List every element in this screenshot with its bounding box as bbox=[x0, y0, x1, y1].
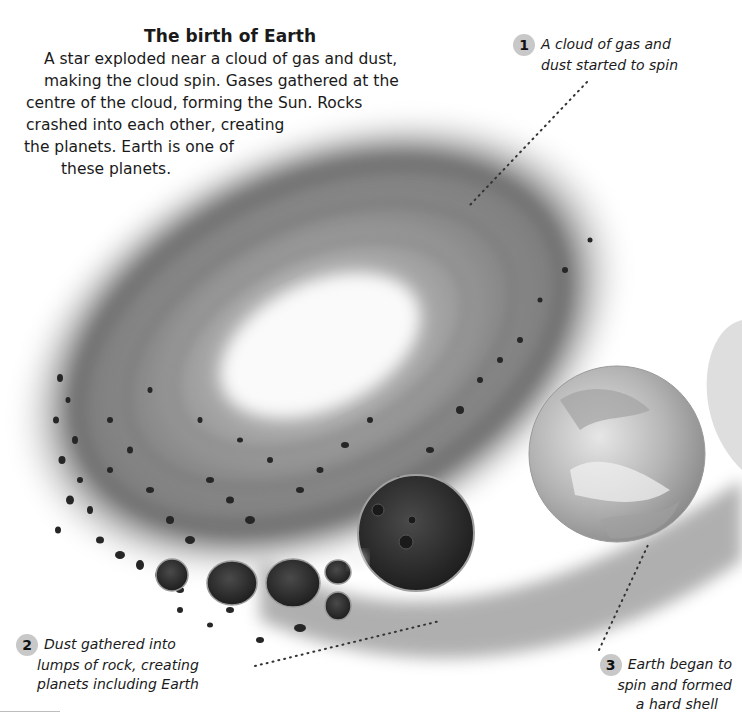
intro-line: these planets. bbox=[61, 158, 171, 180]
callout-2-line: planets including Earth bbox=[16, 675, 199, 694]
intro-line: centre of the cloud, forming the Sun. Ro… bbox=[26, 92, 362, 114]
callout-3-line: Earth began to bbox=[628, 656, 732, 672]
callout-1: 1A cloud of gas and dust started to spin bbox=[513, 34, 678, 75]
step-badge-2: 2 bbox=[16, 634, 38, 656]
callout-1-line: dust started to spin bbox=[513, 56, 678, 75]
step-badge-3: 3 bbox=[600, 654, 622, 676]
callout-1-line: A cloud of gas and bbox=[541, 36, 671, 52]
callout-2: 2Dust gathered into lumps of rock, creat… bbox=[16, 634, 199, 694]
bottom-rule bbox=[0, 711, 60, 712]
young-earth bbox=[529, 366, 705, 542]
intro-line: crashed into each other, creating bbox=[26, 114, 284, 136]
callout-3-line: a hard shell bbox=[536, 695, 732, 713]
page-title: The birth of Earth bbox=[144, 26, 316, 46]
right-edge-arc bbox=[707, 320, 742, 470]
callout-2-line: lumps of rock, creating bbox=[16, 656, 199, 675]
step-badge-1: 1 bbox=[513, 34, 535, 56]
callout-3-line: spin and formed bbox=[536, 676, 732, 695]
intro-line: the planets. Earth is one of bbox=[24, 136, 234, 158]
intro-line: A star exploded near a cloud of gas and … bbox=[44, 48, 397, 70]
callout-2-line: Dust gathered into bbox=[44, 636, 176, 652]
intro-line: making the cloud spin. Gases gathered at… bbox=[44, 70, 399, 92]
callout-3: 3Earth began to spin and formed a hard s… bbox=[536, 654, 732, 713]
